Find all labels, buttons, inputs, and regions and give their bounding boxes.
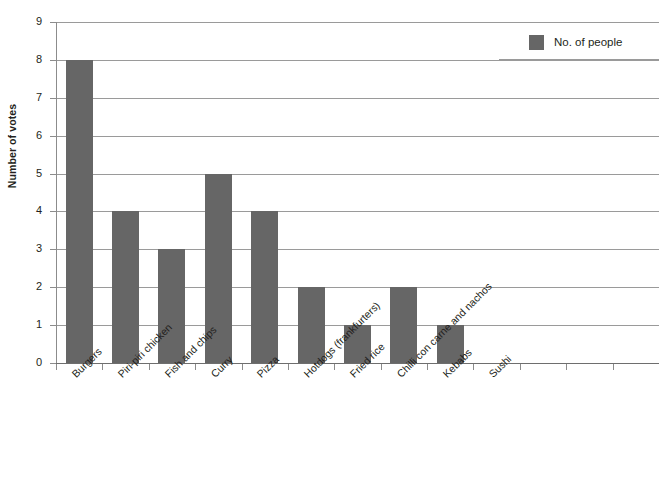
gridline xyxy=(56,211,659,212)
gridline xyxy=(56,136,659,137)
y-axis-tick-mark xyxy=(50,22,56,23)
legend-swatch-icon xyxy=(529,35,544,50)
y-axis-tick-mark xyxy=(50,211,56,212)
x-axis-tick-mark xyxy=(613,364,614,370)
x-axis-tick-mark xyxy=(242,364,243,370)
plot-area xyxy=(56,22,659,363)
y-axis-tick-mark xyxy=(50,325,56,326)
gridline xyxy=(56,249,659,250)
legend: No. of people xyxy=(499,22,659,60)
bar xyxy=(66,60,93,363)
y-axis-tick-label: 9 xyxy=(8,16,42,27)
y-axis-tick-mark xyxy=(50,136,56,137)
y-axis-tick-label: 2 xyxy=(8,281,42,292)
y-axis-tick-label: 8 xyxy=(8,54,42,65)
gridline xyxy=(56,60,659,61)
x-axis-tick-mark xyxy=(427,364,428,370)
x-axis-tick-mark xyxy=(56,364,57,370)
x-axis-tick-mark xyxy=(288,364,289,370)
bar-chart: Number of votes 0123456789 BurgersPiri-p… xyxy=(0,0,659,497)
x-axis-tick-mark xyxy=(102,364,103,370)
y-axis-tick-mark xyxy=(50,249,56,250)
gridline xyxy=(56,287,659,288)
bar xyxy=(251,211,278,363)
x-axis-tick-mark xyxy=(334,364,335,370)
x-axis-tick-mark xyxy=(566,364,567,370)
y-axis-line xyxy=(56,22,57,364)
gridline xyxy=(56,174,659,175)
y-axis-tick-label: 6 xyxy=(8,130,42,141)
x-axis-tick-mark xyxy=(195,364,196,370)
x-axis-tick-mark xyxy=(473,364,474,370)
y-axis-tick-label: 3 xyxy=(8,243,42,254)
y-axis-tick-mark xyxy=(50,98,56,99)
y-axis-tick-mark xyxy=(50,60,56,61)
gridline xyxy=(56,98,659,99)
y-axis-tick-label: 5 xyxy=(8,168,42,179)
y-axis-tick-label: 7 xyxy=(8,92,42,103)
legend-entry-label: No. of people xyxy=(554,36,622,48)
y-axis-tick-label: 1 xyxy=(8,319,42,330)
x-axis-tick-mark xyxy=(149,364,150,370)
x-axis-tick-mark xyxy=(381,364,382,370)
y-axis-tick-mark xyxy=(50,174,56,175)
y-axis-title: Number of votes xyxy=(6,86,18,206)
y-axis-tick-label: 0 xyxy=(8,357,42,368)
y-axis-tick-label: 4 xyxy=(8,205,42,216)
bar xyxy=(112,211,139,363)
x-axis-tick-mark xyxy=(520,364,521,370)
bar xyxy=(158,249,185,363)
y-axis-tick-mark xyxy=(50,287,56,288)
